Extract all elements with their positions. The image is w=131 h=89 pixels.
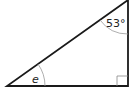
triangle-diagram: 53° e	[0, 0, 131, 89]
right-angle-marker	[117, 76, 128, 86]
triangle	[7, 0, 128, 86]
angle-arc-e	[38, 64, 45, 86]
angle-label-e: e	[32, 73, 39, 86]
angle-label-53: 53°	[106, 17, 126, 30]
